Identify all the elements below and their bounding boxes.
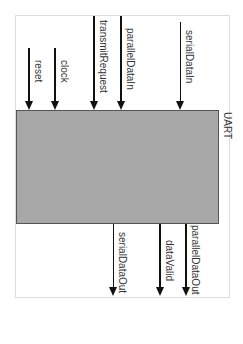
- transmit-request-wire: [93, 16, 95, 102]
- arrow-down-icon: [182, 287, 190, 296]
- clock-wire: [54, 48, 56, 102]
- arrow-down-icon: [25, 101, 33, 110]
- serial-data-out-wire: [113, 224, 114, 288]
- uart-block-label: UART: [222, 112, 232, 139]
- transmit-request-label: transmitRequest: [98, 20, 108, 93]
- serial-data-in-wire: [180, 22, 181, 102]
- data-valid-wire: [159, 224, 161, 288]
- arrow-down-icon: [156, 287, 164, 296]
- arrow-down-icon: [90, 101, 98, 110]
- parallel-data-in-wire: [120, 16, 122, 102]
- serial-data-in-label: serialDataIn: [184, 30, 194, 83]
- parallel-data-in-label: parallelDataIn: [125, 28, 135, 90]
- parallel-data-out-wire: [185, 224, 187, 288]
- reset-wire: [28, 48, 30, 102]
- clock-label: clock: [59, 60, 69, 83]
- arrow-down-icon: [51, 101, 59, 110]
- arrow-down-icon: [109, 287, 117, 296]
- parallel-data-out-label: parallelDataOut: [190, 225, 200, 294]
- arrow-down-icon: [117, 101, 125, 110]
- arrow-down-icon: [176, 101, 184, 110]
- uart-block: [16, 110, 219, 224]
- serial-data-out-label: serialDataOut: [117, 232, 127, 293]
- data-valid-label: dataValid: [164, 240, 174, 281]
- reset-label: reset: [33, 60, 43, 82]
